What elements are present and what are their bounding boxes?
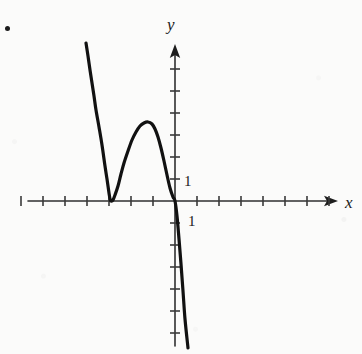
x-unit-tick-label: 1 xyxy=(188,214,196,229)
x-axis-label: x xyxy=(345,194,353,211)
y-unit-tick-label: 1 xyxy=(184,174,192,189)
function-curve xyxy=(86,43,188,348)
figure-canvas: y x 1 1 xyxy=(0,0,362,354)
y-axis-label: y xyxy=(167,16,175,33)
graph-plot-area xyxy=(0,0,362,354)
